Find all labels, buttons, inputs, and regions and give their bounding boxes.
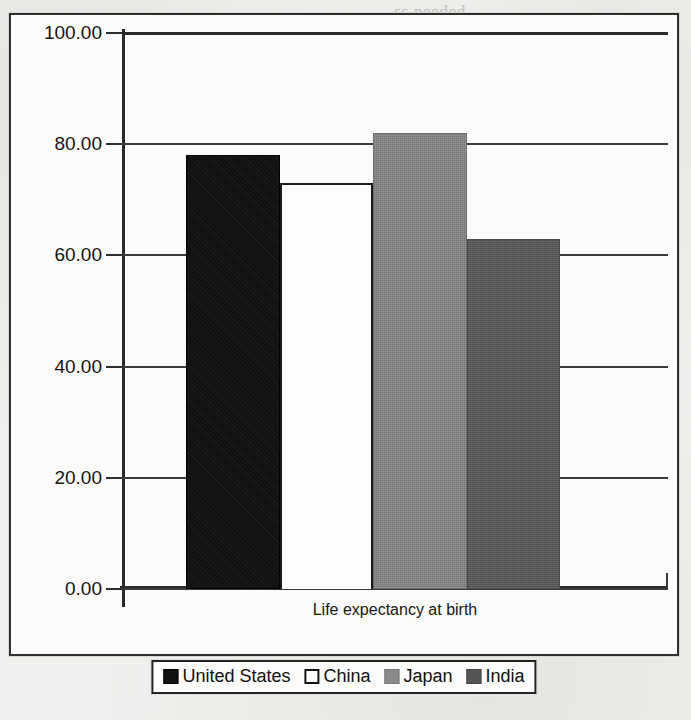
plot-area: 100.0080.0060.0040.0020.000.00: [122, 33, 668, 589]
legend-swatch-icon-india: [467, 669, 482, 684]
y-axis-label-80: 80.00: [54, 133, 102, 155]
y-tick-0: [106, 588, 122, 590]
y-tick-40: [106, 366, 122, 368]
y-axis-label-0: 0.00: [65, 578, 102, 600]
legend-swatch-icon-china: [304, 669, 319, 684]
legend-label: India: [486, 666, 525, 687]
legend-label: China: [323, 666, 370, 687]
legend-swatch-icon-us: [163, 669, 178, 684]
bar-group: [122, 33, 668, 589]
y-axis-label-20: 20.00: [54, 467, 102, 489]
bar-china: [280, 183, 373, 589]
y-tick-80: [106, 143, 122, 145]
y-tick-100: [106, 32, 122, 34]
legend-item-india[interactable]: India: [467, 666, 525, 687]
y-axis-label-100: 100.00: [44, 22, 102, 44]
chart-frame: 100.0080.0060.0040.0020.000.00 Life expe…: [9, 13, 679, 656]
legend-item-united-states[interactable]: United States: [163, 666, 290, 687]
chart-legend: United StatesChinaJapanIndia: [151, 660, 536, 694]
legend-item-china[interactable]: China: [304, 666, 370, 687]
legend-label: Japan: [404, 666, 453, 687]
legend-label: United States: [182, 666, 290, 687]
y-axis-label-60: 60.00: [54, 244, 102, 266]
bar-united-states: [186, 155, 279, 589]
legend-swatch-icon-japan: [385, 669, 400, 684]
y-tick-60: [106, 254, 122, 256]
y-axis-label-40: 40.00: [54, 356, 102, 378]
bar-japan: [373, 133, 466, 589]
y-tick-20: [106, 477, 122, 479]
bar-india: [467, 239, 560, 589]
legend-item-japan[interactable]: Japan: [385, 666, 453, 687]
category-axis-title: Life expectancy at birth: [122, 601, 668, 619]
